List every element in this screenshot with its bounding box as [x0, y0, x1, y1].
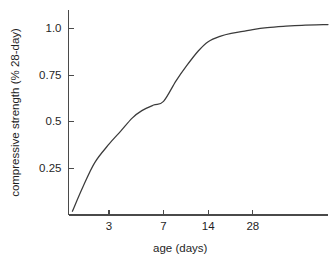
x-axis-ticks	[109, 210, 253, 215]
y-tick-label: 0.25	[39, 162, 61, 174]
chart-figure: 0.250.50.751.0 371428 age (days) compres…	[0, 0, 332, 265]
data-series-layer	[72, 25, 328, 212]
y-axis-title: compressive strength (% 28-day)	[9, 28, 21, 197]
x-tick-label: 7	[160, 220, 166, 232]
y-axis-group: 0.250.50.751.0	[39, 10, 73, 215]
y-axis-ticks	[69, 29, 74, 169]
x-tick-label: 28	[246, 220, 259, 232]
data-curve	[72, 25, 328, 212]
y-tick-label: 0.5	[46, 115, 62, 127]
x-tick-label: 3	[106, 220, 112, 232]
x-tick-label: 14	[202, 220, 215, 232]
chart-canvas: 0.250.50.751.0 371428 age (days) compres…	[0, 0, 332, 265]
y-tick-label: 0.75	[39, 69, 61, 81]
x-axis-group: 371428	[69, 210, 329, 232]
y-axis-tick-labels: 0.250.50.751.0	[39, 22, 61, 174]
x-axis-title: age (days)	[153, 242, 208, 254]
y-tick-label: 1.0	[46, 22, 62, 34]
x-axis-tick-labels: 371428	[106, 220, 259, 232]
